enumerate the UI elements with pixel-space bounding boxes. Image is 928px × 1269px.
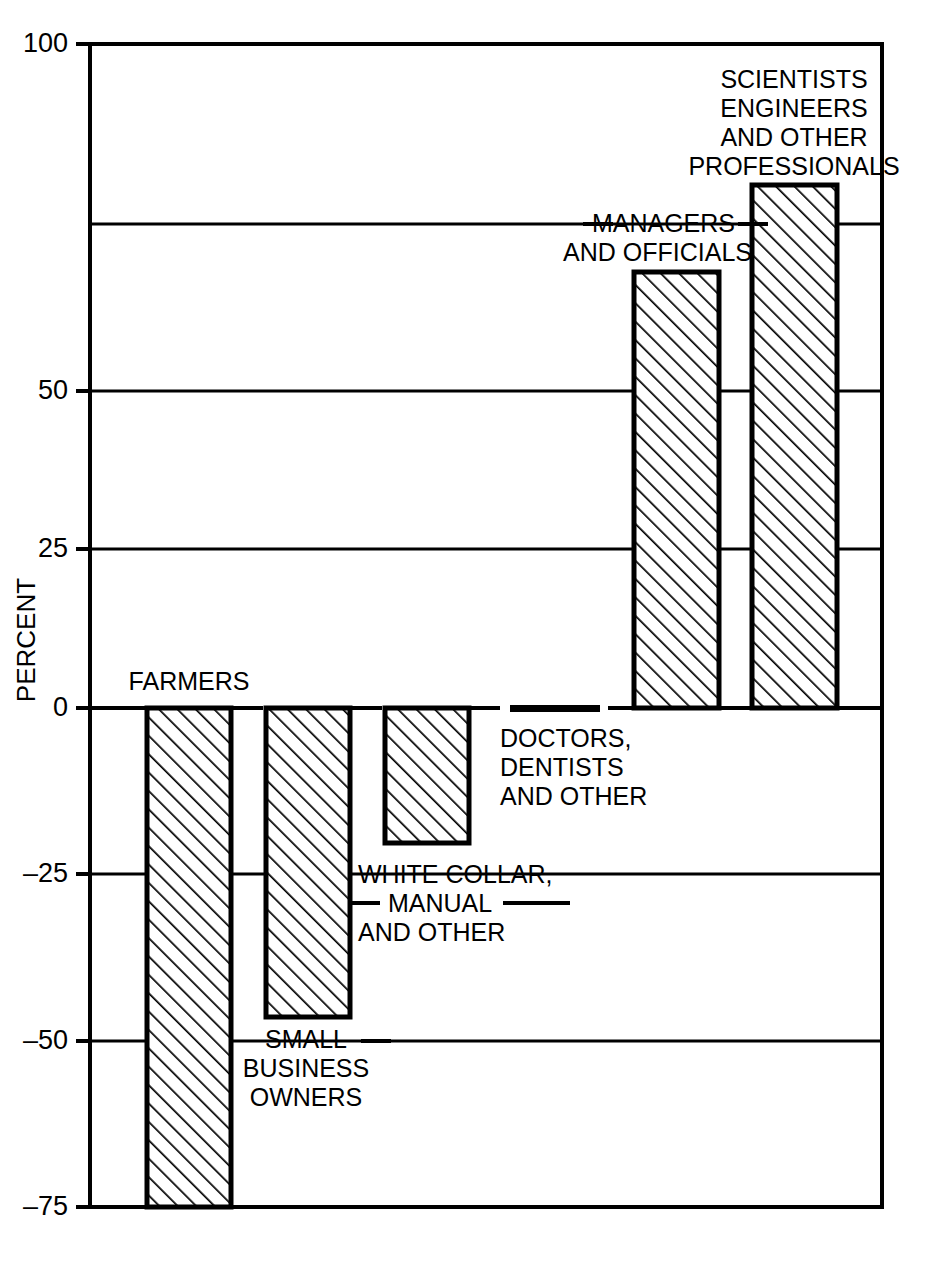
label-white-line3: AND OTHER bbox=[358, 918, 505, 946]
bar-white-collar-manual-and-other bbox=[385, 708, 469, 843]
label-sci-line2: ENGINEERS bbox=[720, 94, 867, 122]
label-managers-line1: MANAGERS bbox=[592, 209, 735, 237]
ytick-label-minus75: –75 bbox=[23, 1191, 68, 1221]
ytick-label-25: 25 bbox=[38, 533, 68, 563]
label-small-line2: BUSINESS bbox=[243, 1054, 369, 1082]
label-managers-line2: AND OFFICIALS bbox=[563, 238, 752, 266]
y-axis-title: PERCENT bbox=[11, 578, 41, 702]
label-doctors-line2: DENTISTS bbox=[500, 753, 624, 781]
bar-managers-and-officials bbox=[634, 272, 719, 708]
bar-doctors-dentists-and-other bbox=[510, 705, 600, 712]
label-white-line2: MANUAL bbox=[388, 889, 492, 917]
ytick-label-100: 100 bbox=[23, 28, 68, 58]
label-sci-line3: AND OTHER bbox=[720, 123, 867, 151]
ytick-label-0: 0 bbox=[53, 692, 68, 722]
bar-small-business-owners bbox=[266, 708, 350, 1017]
label-small-line3: OWNERS bbox=[250, 1083, 363, 1111]
ytick-label-minus50: –50 bbox=[23, 1025, 68, 1055]
label-sci-line4: PROFESSIONALS bbox=[688, 152, 899, 180]
label-farmers-line1: FARMERS bbox=[129, 667, 250, 695]
bar-scientists-engineers-and-other-professionals bbox=[752, 185, 837, 708]
label-white-line1: WHITE COLLAR, bbox=[358, 860, 552, 888]
bar-chart: 100 50 25 0 –25 –50 –75 PERCENT FARMERS … bbox=[0, 0, 928, 1269]
bar-farmers bbox=[147, 708, 231, 1207]
label-farmers: FARMERS bbox=[129, 667, 250, 695]
label-small-line1: SMALL bbox=[265, 1025, 347, 1053]
label-doctors-line1: DOCTORS, bbox=[500, 724, 632, 752]
label-sci-line1: SCIENTISTS bbox=[720, 65, 867, 93]
ytick-label-minus25: –25 bbox=[23, 858, 68, 888]
label-doctors-line3: AND OTHER bbox=[500, 782, 647, 810]
chart-svg: 100 50 25 0 –25 –50 –75 PERCENT FARMERS … bbox=[0, 0, 928, 1269]
ytick-label-50: 50 bbox=[38, 375, 68, 405]
